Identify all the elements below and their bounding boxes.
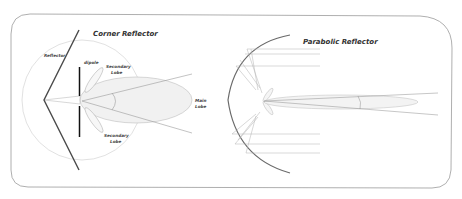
secondary-lobe-bottom-label: Secondary	[104, 133, 129, 138]
reflector-comparison-diagram: Corner Reflector Reflector dipole Second…	[0, 0, 462, 199]
corner-reflector-group: Corner Reflector Reflector dipole Second…	[22, 30, 207, 170]
corner-reflector-title: Corner Reflector	[93, 30, 158, 38]
dipole-label: dipole	[84, 60, 99, 65]
parabolic-reflector-group: Parabolic Reflector	[228, 35, 438, 173]
parabolic-main-lobe	[264, 95, 418, 109]
main-lobe-label: Main	[195, 98, 206, 103]
secondary-lobe-top-label-2: Lobe	[111, 70, 123, 75]
parabolic-reflector-title: Parabolic Reflector	[303, 38, 378, 46]
secondary-lobe-top-label: Secondary	[106, 64, 131, 69]
feed-arm	[44, 96, 80, 104]
rays-bottom	[232, 112, 320, 153]
main-lobe	[80, 77, 192, 123]
main-lobe-label-2: Lobe	[195, 104, 207, 109]
reflector-label: Reflector	[44, 53, 66, 58]
secondary-lobe-bottom-label-2: Lobe	[110, 139, 122, 144]
corner-reflector-plate	[44, 30, 79, 170]
